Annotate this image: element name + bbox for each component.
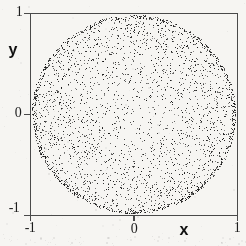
x-tick-label-0: 0 (131, 221, 138, 237)
y-tick-mark-0 (24, 114, 30, 116)
y-tick-label-neg1: -1 (9, 200, 20, 216)
y-tick-mark-1 (24, 13, 30, 15)
x-tick-label-1: 1 (234, 220, 241, 236)
x-tick-label-neg1: -1 (25, 220, 36, 236)
scatter-figure: 1 0 -1 -1 0 1 y x (0, 0, 246, 246)
y-tick-label-0: 0 (15, 105, 22, 121)
y-axis-label: y (9, 41, 18, 59)
plot-frame (30, 13, 238, 216)
x-axis-label: x (180, 221, 189, 239)
y-tick-label-1: 1 (16, 4, 23, 20)
